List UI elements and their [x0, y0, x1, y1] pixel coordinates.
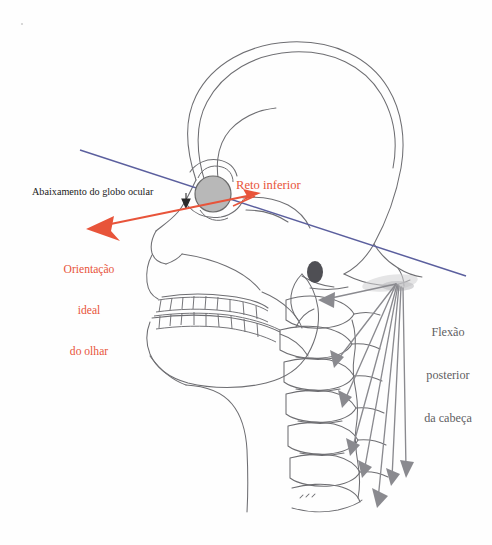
lower-tooth-3	[181, 313, 182, 325]
label-ideal-gaze: Orientação ideal do olhar	[34, 236, 144, 386]
nasal-septum	[166, 254, 182, 264]
maxilla-anterior	[147, 255, 158, 299]
label-ideal-gaze-line-2: ideal	[34, 304, 144, 318]
vertebra-c3-spinous	[354, 376, 382, 381]
vertebra-c2-spinous	[352, 344, 380, 349]
label-ideal-gaze-line-1: Orientação	[34, 263, 144, 277]
nasal-aperture	[151, 231, 166, 264]
vertebra-c6	[290, 454, 360, 486]
flexion-arrowhead-6	[372, 488, 388, 508]
label-ideal-gaze-line-3: do olhar	[34, 345, 144, 359]
upper-tooth-1	[159, 300, 161, 312]
upper-tooth-3	[182, 297, 183, 309]
vertebra-c3	[284, 358, 354, 390]
zygomatic-arch	[243, 197, 310, 228]
label-posterior-flexion: Flexão posterior da cabeça	[406, 296, 490, 454]
vertebra-c5	[288, 422, 358, 454]
mastoid-process	[307, 261, 323, 283]
label-posterior-flexion-line-2: posterior	[406, 368, 490, 382]
upper-tooth-8	[243, 302, 244, 315]
maxilla-body	[182, 254, 260, 290]
mandible-body-superior	[152, 315, 280, 332]
vertebra-c7-inferior	[292, 500, 362, 512]
label-posterior-flexion-line-3: da cabeça	[406, 411, 490, 425]
vertebra-c1-posterior-arch	[354, 313, 380, 315]
upper-tooth-4	[193, 296, 194, 309]
skull-outer-contour	[188, 42, 403, 274]
vertebra-c4-spinous	[356, 408, 384, 413]
vertebra-c5-spinous	[358, 440, 386, 445]
frontal-nasal-contour	[156, 180, 196, 231]
label-posterior-flexion-line-1: Flexão	[406, 325, 490, 339]
vertebra-c2	[280, 326, 352, 358]
artifact-speck	[21, 23, 23, 25]
cranium-group	[188, 42, 403, 274]
mandible-ramus-posterior	[302, 274, 319, 354]
upper-tooth-6	[217, 297, 218, 310]
flexion-arrowhead-1	[318, 292, 335, 308]
visual-axis-shaft	[96, 195, 252, 227]
upper-tooth-2	[170, 298, 172, 310]
anterior-neck-contour	[186, 385, 248, 512]
diagram-canvas: Abaixamento do globo ocular Reto inferio…	[0, 0, 492, 545]
foramen-magnum-edge	[310, 287, 348, 289]
label-inferior-rectus: Reto inferior	[236, 178, 301, 193]
mandible-group	[147, 274, 319, 388]
hard-palate	[162, 294, 268, 308]
vertebra-c2-odontoid	[296, 309, 314, 327]
lower-tooth-1	[159, 316, 160, 328]
skull-inner-table	[198, 52, 395, 182]
upper-dental-arch	[158, 297, 268, 311]
vertebra-label-c7	[300, 494, 315, 498]
vertebra-c7	[292, 484, 360, 502]
cervical-spine-group	[280, 296, 388, 511]
upper-tooth-5	[205, 296, 206, 309]
orbit-superior-rim	[190, 160, 237, 176]
flexion-arrowhead-3	[338, 390, 352, 408]
label-eyeball-depression: Abaixamento do globo ocular	[32, 186, 153, 198]
neck-soft-tissue-group	[150, 356, 248, 512]
lower-tooth-8	[244, 319, 245, 332]
flexion-arrowhead-5	[358, 460, 372, 478]
vertebra-c1	[286, 296, 354, 328]
flexion-arrowhead-8	[400, 460, 414, 478]
